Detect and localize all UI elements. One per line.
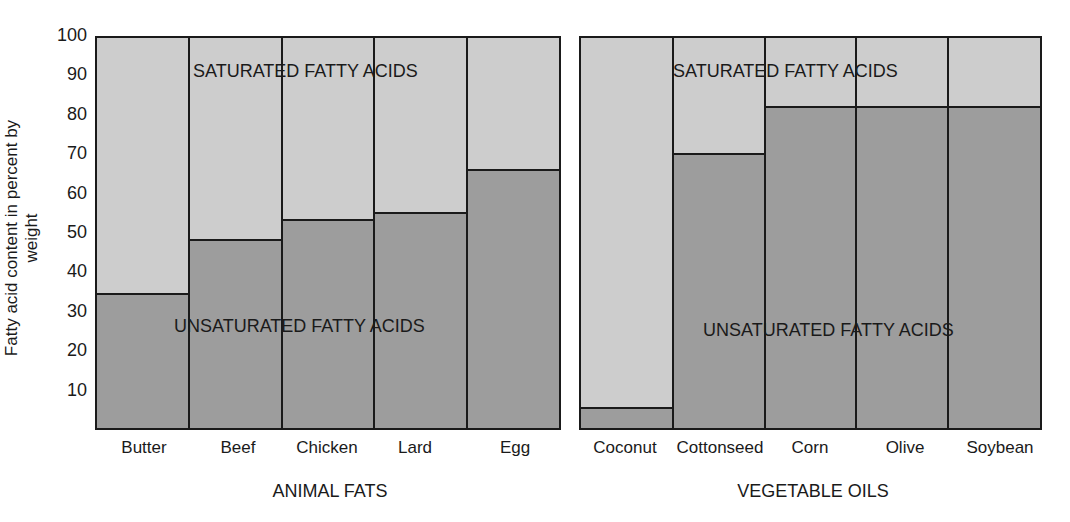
category-label: Butter <box>104 438 184 458</box>
animal-bar-egg <box>467 38 559 428</box>
y-tick-label: 60 <box>47 183 87 204</box>
vegetable-bar-coconut <box>581 38 673 428</box>
bar-divider <box>764 38 766 428</box>
animal-bar-butter <box>97 38 189 428</box>
animal-fats-group-label: ANIMAL FATS <box>230 481 430 502</box>
saturated-segment <box>97 38 189 295</box>
vegetable-saturated-label: SATURATED FATTY ACIDS <box>673 61 898 82</box>
y-tick-label: 100 <box>47 25 87 46</box>
category-label: Lard <box>380 438 450 458</box>
category-label: Coconut <box>580 438 670 458</box>
saturated-segment <box>467 38 559 171</box>
category-label: Chicken <box>284 438 370 458</box>
bar-divider <box>373 38 375 428</box>
animal-unsaturated-label: UNSATURATED FATTY ACIDS <box>174 316 425 337</box>
category-label: Corn <box>780 438 840 458</box>
y-tick-label: 90 <box>47 64 87 85</box>
vegetable-unsaturated-label: UNSATURATED FATTY ACIDS <box>703 320 954 341</box>
vegetable-oils-group-label: VEGETABLE OILS <box>713 481 913 502</box>
bar-divider <box>281 38 283 428</box>
animal-bar-lard <box>374 38 466 428</box>
bar-divider <box>947 38 949 428</box>
y-tick-label: 20 <box>47 340 87 361</box>
y-tick-label: 30 <box>47 301 87 322</box>
saturated-segment <box>673 38 765 155</box>
saturated-segment <box>948 38 1040 108</box>
vegetable-bar-olive <box>856 38 948 428</box>
y-tick-label: 80 <box>47 104 87 125</box>
y-tick-label: 70 <box>47 143 87 164</box>
unsaturated-segment <box>467 169 559 428</box>
bar-divider <box>466 38 468 428</box>
unsaturated-segment <box>948 106 1040 428</box>
animal-fats-panel <box>95 36 561 430</box>
category-label: Olive <box>875 438 935 458</box>
y-tick-label: 10 <box>47 380 87 401</box>
unsaturated-segment <box>97 293 189 428</box>
saturated-segment <box>581 38 673 409</box>
category-label: Soybean <box>960 438 1040 458</box>
y-tick-label: 50 <box>47 222 87 243</box>
animal-bar-beef <box>189 38 281 428</box>
bar-divider <box>188 38 190 428</box>
category-label: Cottonseed <box>670 438 770 458</box>
bar-divider <box>672 38 674 428</box>
category-label: Egg <box>490 438 540 458</box>
bar-divider <box>855 38 857 428</box>
vegetable-bar-soybean <box>948 38 1040 428</box>
category-label: Beef <box>208 438 268 458</box>
unsaturated-segment <box>856 106 948 428</box>
unsaturated-segment <box>581 407 673 429</box>
y-tick-label: 40 <box>47 261 87 282</box>
unsaturated-segment <box>765 106 857 428</box>
vegetable-oils-panel <box>579 36 1042 430</box>
animal-saturated-label: SATURATED FATTY ACIDS <box>193 61 418 82</box>
unsaturated-segment <box>673 153 765 428</box>
vegetable-bar-cottonseed <box>673 38 765 428</box>
animal-bar-chicken <box>282 38 374 428</box>
vegetable-bar-corn <box>765 38 857 428</box>
y-axis-label: Fatty acid content in percent by weight <box>2 98 42 378</box>
